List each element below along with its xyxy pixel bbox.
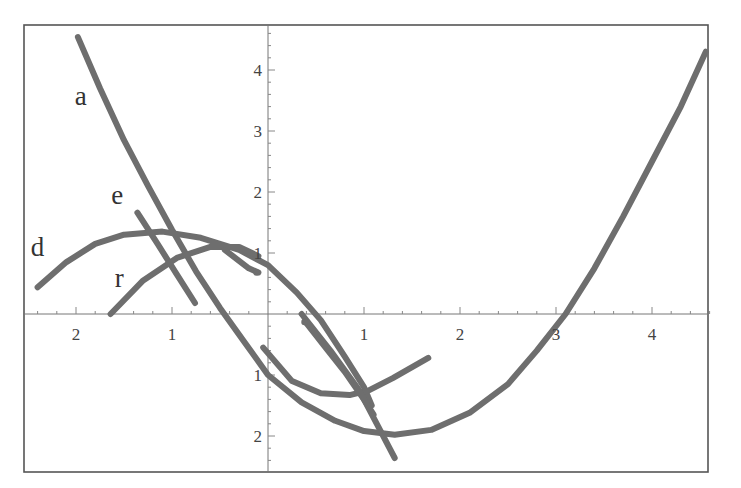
x-tick-label: 1 xyxy=(168,325,177,344)
x-tick-label: 3 xyxy=(552,325,561,344)
curve-label-e: e xyxy=(111,180,123,210)
y-tick-label: 3 xyxy=(254,122,263,141)
y-tick-label: 4 xyxy=(254,61,263,80)
curve-dot xyxy=(301,319,307,325)
y-tick-label: 2 xyxy=(254,183,263,202)
curves xyxy=(38,37,706,458)
x-tick-label: 1 xyxy=(360,325,369,344)
y-tick-label: 1 xyxy=(254,366,263,385)
chart-area: 211234432112 aedr xyxy=(0,0,741,488)
y-tick-label: 1 xyxy=(254,244,263,263)
x-tick-label: 2 xyxy=(72,325,81,344)
curve-label-a: a xyxy=(75,81,87,111)
x-tick-label: 4 xyxy=(648,325,657,344)
y-tick-label: 2 xyxy=(254,427,263,446)
curve-dot xyxy=(253,269,259,275)
x-tick-label: 2 xyxy=(456,325,465,344)
curve-label-d: d xyxy=(31,232,45,262)
plot-canvas: 211234432112 aedr xyxy=(0,0,741,488)
curve-label-r: r xyxy=(115,263,124,293)
curve-d xyxy=(38,232,372,406)
